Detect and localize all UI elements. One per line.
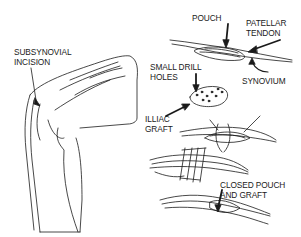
label-line: ILLIAC: [145, 114, 173, 124]
label-patellar-tendon: PATELLAR TENDON: [246, 18, 286, 38]
label-line: PATELLAR: [246, 18, 286, 28]
tendon-pouch-figure: [170, 40, 292, 62]
label-line: TENDON: [246, 28, 286, 38]
label-line: SUBSYNOVIAL: [14, 47, 71, 57]
label-line: GRAFT: [145, 124, 173, 134]
label-subsynovial-incision: SUBSYNOVIAL INCISION: [14, 47, 71, 67]
label-pouch: POUCH: [192, 13, 221, 23]
sutured-tendon-figure: [150, 148, 248, 182]
label-line: INCISION: [14, 57, 71, 67]
incision-arrow-head: [34, 98, 40, 106]
incision-pointer-line: [31, 68, 36, 100]
label-small-drill-holes: SMALL DRILL HOLES: [150, 62, 202, 82]
knee-illustration: [25, 56, 137, 232]
label-iliac-graft: ILLIAC GRAFT: [145, 114, 173, 134]
label-line: SMALL DRILL: [150, 62, 202, 72]
label-line: AND GRAFT: [220, 190, 285, 200]
label-line: CLOSED POUCH: [220, 180, 285, 190]
label-line: HOLES: [150, 72, 202, 82]
label-closed-pouch-and-graft: CLOSED POUCH AND GRAFT: [220, 180, 285, 200]
label-synovium: SYNOVIUM: [242, 76, 285, 86]
graft-insertion-figure: [180, 116, 276, 152]
